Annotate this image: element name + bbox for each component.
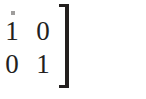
matrix-bracket-right [59,4,69,88]
matrix-cell-row2-col2: 1 [32,51,54,78]
matrix-figure: 1 0 0 1 [0,0,146,99]
matrix-cell-row2-col1: 0 [1,51,23,78]
scan-speck-artifact [11,11,15,15]
scanned-page: 1 0 0 1 [0,0,146,99]
matrix-cell-row1-col2: 0 [32,18,54,45]
matrix-cell-row1-col1: 1 [1,18,23,45]
